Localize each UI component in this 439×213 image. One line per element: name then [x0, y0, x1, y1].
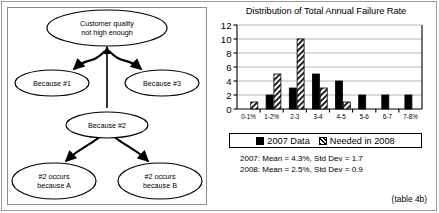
chart-legend: 2007 Data Needed in 2008	[229, 133, 422, 148]
failure-rate-chart-panel: Distribution of Total Annual Failure Rat…	[215, 2, 437, 210]
diagram-connectors	[66, 47, 148, 161]
bar-2007-1-2	[266, 95, 273, 109]
bar-2008-0-1	[251, 102, 258, 109]
x-tick-3: 3-4	[313, 113, 323, 120]
y-tick-10: 10	[221, 34, 232, 45]
bar-2008-4-5	[343, 102, 350, 109]
diagram-node-root: Customer quality not high enough	[47, 10, 167, 46]
chart-gridlines	[237, 25, 422, 95]
bar-2007-3-4	[312, 74, 319, 109]
chart-canvas: 12 10 8 6 4 2 0	[215, 19, 437, 131]
chart-statistics: 2007: Mean = 4.3%, Std Dev = 1.7 2008: M…	[240, 153, 430, 175]
bar-2008-3-4	[320, 88, 327, 109]
y-tick-0: 0	[226, 104, 231, 115]
x-tick-7: 7-8%	[403, 113, 418, 120]
legend-label-needed-2008: Needed in 2008	[330, 136, 395, 146]
x-tick-4: 4-5	[337, 113, 347, 120]
bar-2007-6-7	[382, 95, 389, 109]
y-tick-12: 12	[221, 20, 232, 31]
node-root-line-1: Customer quality	[80, 19, 134, 28]
legend-entry-needed-2008: Needed in 2008	[319, 136, 395, 146]
node-causeB-line-2: because B	[143, 181, 177, 190]
node-root-line-2: not high enough	[81, 28, 133, 37]
figure-root: Customer quality not high enough Because…	[0, 0, 439, 213]
chart-axes	[234, 25, 423, 113]
chart-y-tick-labels: 12 10 8 6 4 2 0	[221, 20, 232, 115]
bar-2008-1-2	[274, 74, 281, 109]
node-because3-label: Because #3	[143, 79, 181, 88]
bar-2007-2-3	[289, 88, 296, 109]
bar-2008-2-3	[297, 39, 304, 109]
diagram-node-because-3: Because #3	[125, 70, 199, 96]
legend-entry-2007-data: 2007 Data	[256, 136, 309, 146]
diagram-node-because-2: Because #2	[66, 112, 148, 138]
node-because2-label: Because #2	[88, 121, 126, 130]
bar-2007-7-8	[405, 95, 412, 109]
x-tick-5: 5-6	[360, 113, 370, 120]
chart-bars	[251, 39, 412, 109]
chart-x-tick-labels: 0-1% 1-2% 2-3 3-4 4-5 5-6 6-7 7-8%	[241, 113, 418, 120]
stat-line-2007: 2007: Mean = 4.3%, Std Dev = 1.7	[240, 153, 430, 164]
chart-title: Distribution of Total Annual Failure Rat…	[215, 5, 437, 16]
x-tick-0: 0-1%	[241, 113, 256, 120]
x-tick-2: 2-3	[290, 113, 300, 120]
y-tick-8: 8	[226, 48, 231, 59]
y-tick-2: 2	[226, 90, 231, 101]
stat-line-2008: 2008: Mean = 2.5%, Std Dev = 0.9	[240, 164, 430, 175]
diagram-node-cause-a: #2 occurs because A	[12, 163, 96, 199]
diagram-node-cause-b: #2 occurs because B	[118, 163, 202, 199]
table-reference-caption: (table 4b)	[392, 194, 427, 204]
chart-plot-area: 12 10 8 6 4 2 0	[215, 19, 437, 131]
node-causeB-line-1: #2 occurs	[144, 172, 176, 181]
bar-2007-4-5	[336, 81, 343, 109]
node-because1-label: Because #1	[33, 79, 71, 88]
x-tick-1: 1-2%	[264, 113, 279, 120]
legend-label-2007-data: 2007 Data	[267, 136, 309, 146]
node-causeA-line-1: #2 occurs	[38, 172, 70, 181]
bar-2007-5-6	[359, 95, 366, 109]
y-tick-4: 4	[226, 76, 232, 87]
node-causeA-line-2: because A	[37, 181, 71, 190]
diagram-canvas: Customer quality not high enough Because…	[4, 4, 212, 208]
legend-swatch-hatch-icon	[319, 137, 327, 145]
cause-effect-diagram-panel: Customer quality not high enough Because…	[4, 4, 212, 208]
diagram-node-because-1: Because #1	[15, 70, 89, 96]
x-tick-6: 6-7	[383, 113, 393, 120]
legend-swatch-solid-icon	[256, 137, 264, 145]
y-tick-6: 6	[226, 62, 231, 73]
